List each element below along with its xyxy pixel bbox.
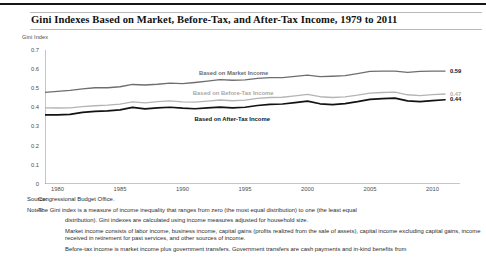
x-tick-label: 1985: [105, 186, 135, 192]
y-tick-label: 0.5: [21, 85, 39, 91]
series-label: Based on Before-Tax Income: [193, 90, 274, 96]
x-tick-label: 1995: [230, 186, 260, 192]
x-tick-label: 1990: [168, 186, 198, 192]
y-tick-label: 0.3: [21, 123, 39, 129]
source-row: Source: Congressional Budget Office.: [0, 196, 486, 204]
figure-notes: Source: Congressional Budget Office. Not…: [0, 196, 486, 257]
series-label: Based on After-Tax Income: [194, 116, 270, 122]
x-tick-label: 1980: [43, 186, 73, 192]
source-value: Congressional Budget Office.: [38, 196, 458, 204]
notes-paragraph-1: The Gini index is a measure of income in…: [38, 207, 458, 215]
y-tick-label: 0.6: [21, 66, 39, 72]
title-rule-bottom: [30, 29, 482, 30]
x-tick-label: 2010: [418, 186, 448, 192]
y-tick-label: 0.2: [21, 143, 39, 149]
y-tick-label: 0.7: [21, 47, 39, 53]
y-tick-label: 0.4: [21, 104, 39, 110]
notes-row: Notes: The Gini index is a measure of in…: [0, 207, 486, 215]
y-tick-label: 0.1: [21, 162, 39, 168]
title-rule-top: [30, 12, 482, 13]
series-end-value: 0.44: [450, 96, 461, 102]
notes-paragraph-1b: distribution). Gini indexes are calculat…: [0, 217, 485, 225]
notes-label: Notes:: [0, 207, 38, 215]
source-label: Source:: [0, 196, 38, 204]
y-axis-title: Gini Index: [22, 34, 48, 40]
x-tick-label: 2005: [355, 186, 385, 192]
series-label: Based on Market Income: [199, 70, 268, 76]
notes-paragraph-2: Market income consists of labor income, …: [0, 228, 485, 243]
figure-title: Gini Indexes Based on Market, Before-Tax…: [31, 14, 481, 25]
notes-paragraph-3: Before-tax income is market income plus …: [0, 246, 485, 254]
series-end-value: 0.59: [450, 68, 461, 74]
x-tick-label: 2000: [293, 186, 323, 192]
y-tick-label: 0: [21, 181, 39, 187]
top-rule: [0, 3, 486, 5]
figure-page: Gini Indexes Based on Market, Before-Tax…: [0, 0, 486, 267]
